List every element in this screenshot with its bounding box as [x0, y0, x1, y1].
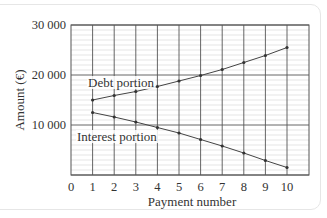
- grid: [71, 25, 309, 175]
- y-tick-label: 30 000: [32, 18, 66, 32]
- data-point: [264, 159, 267, 162]
- x-tick-label: 0: [68, 180, 74, 194]
- data-point: [264, 54, 267, 57]
- axes: 10 00020 00030 000012345678910Payment nu…: [12, 18, 309, 209]
- debt-portion-label: Debt portion: [88, 75, 155, 90]
- series-line: [93, 48, 287, 101]
- x-tick-label: 10: [281, 180, 294, 194]
- y-axis-title: Amount (€): [12, 69, 27, 130]
- labels: Debt portionInterest portion: [76, 75, 158, 144]
- data-point: [242, 151, 245, 154]
- data-point: [199, 138, 202, 141]
- data-point: [91, 98, 94, 101]
- x-tick-label: 3: [133, 180, 139, 194]
- data-point: [221, 68, 224, 71]
- data-point: [221, 144, 224, 147]
- x-axis-title: Payment number: [148, 194, 237, 209]
- x-tick-label: 9: [262, 180, 268, 194]
- data-point: [134, 90, 137, 93]
- data-point: [285, 46, 288, 49]
- data-point: [156, 85, 159, 88]
- data-point: [177, 79, 180, 82]
- data-point: [285, 166, 288, 169]
- x-tick-label: 2: [111, 180, 117, 194]
- line-chart: 10 00020 00030 000012345678910Payment nu…: [0, 0, 327, 218]
- data-point: [113, 115, 116, 118]
- y-tick-label: 20 000: [32, 68, 66, 82]
- y-tick-label: 10 000: [32, 118, 66, 132]
- x-tick-label: 1: [89, 180, 95, 194]
- x-tick-label: 4: [154, 180, 161, 194]
- interest-portion-label: Interest portion: [77, 129, 157, 144]
- data-point: [113, 94, 116, 97]
- x-tick-label: 7: [219, 180, 225, 194]
- x-tick-label: 5: [176, 180, 182, 194]
- data-point: [242, 61, 245, 64]
- series: [91, 46, 289, 169]
- data-point: [199, 74, 202, 77]
- data-point: [91, 111, 94, 114]
- x-tick-label: 6: [197, 180, 203, 194]
- data-point: [134, 120, 137, 123]
- data-point: [177, 131, 180, 134]
- x-tick-label: 8: [241, 180, 247, 194]
